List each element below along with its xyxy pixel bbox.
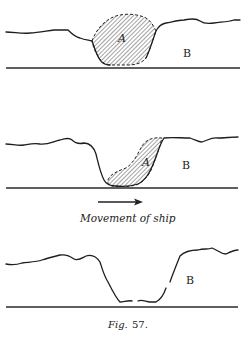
figure-57-diagram: A B A B Movement of ship B Fig. 57. (0, 0, 252, 342)
surface-b-line (6, 248, 238, 302)
panel-2: A B Movement of ship (6, 137, 238, 224)
label-b: B (186, 274, 194, 287)
caption-number: 57. (132, 319, 148, 330)
label-a: A (141, 156, 150, 169)
label-b: B (183, 47, 191, 60)
figure-caption: Fig. 57. (107, 319, 148, 330)
caption-prefix: Fig. (107, 319, 128, 330)
movement-arrow (98, 199, 143, 206)
label-b: B (182, 159, 190, 172)
label-a: A (117, 32, 126, 45)
panel-1: A B (6, 14, 240, 68)
panel-3: B (6, 248, 238, 307)
movement-of-ship-label: Movement of ship (79, 212, 176, 224)
